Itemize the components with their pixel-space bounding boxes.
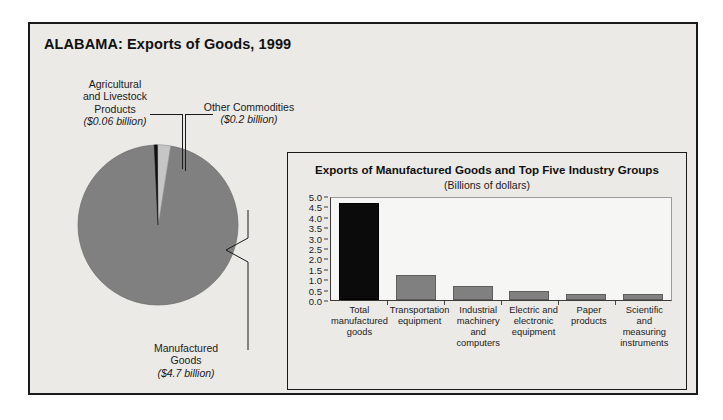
x-axis-label-line: products <box>562 316 615 327</box>
pie-label-agricultural-and-livestock-products: Agricultural and Livestock Products ($0.… <box>59 78 171 128</box>
y-axis-tick-label: 4.5 <box>309 202 322 213</box>
y-axis-tick-label: 3.0 <box>309 233 322 244</box>
x-axis-label: Industrialmachinery andcomputers <box>450 305 505 349</box>
y-axis-tick-mark <box>324 290 328 291</box>
leader-line-agricultural-vertical <box>182 114 183 169</box>
x-axis-label: Paperproducts <box>561 305 616 349</box>
x-axis-label-line: Transportation <box>390 305 450 316</box>
x-axis-label: Totalmanufacturedgoods <box>330 305 389 349</box>
figure-panel: ALABAMA: Exports of Goods, 1999 Agricult… <box>28 22 698 395</box>
pie-chart-svg <box>77 144 239 306</box>
y-axis-tick-label: 2.0 <box>309 254 322 265</box>
y-axis-tick-mark <box>324 249 328 250</box>
x-axis-label: Transportationequipment <box>389 305 451 349</box>
x-axis-label: Scientific andmeasuringinstruments <box>617 305 672 349</box>
pie-chart <box>77 144 239 306</box>
y-axis-tick-label: 1.0 <box>309 275 322 286</box>
x-axis-tick-mark <box>558 301 559 305</box>
x-axis-label-line: measuring <box>618 327 671 338</box>
x-axis-tick-mark <box>501 301 502 305</box>
pie-label-other-commodities: Other Commodities ($0.2 billion) <box>185 101 313 126</box>
y-axis-tick-label: 5.0 <box>309 192 322 203</box>
bar-slot <box>388 198 445 300</box>
y-axis-tick-mark <box>324 207 328 208</box>
bar-slot <box>331 198 388 300</box>
inset-chart-subtitle: (Billions of dollars) <box>288 179 686 191</box>
x-axis-tick-mark <box>615 301 616 305</box>
y-axis-tick-label: 4.0 <box>309 212 322 223</box>
y-axis-tick-mark <box>324 301 328 302</box>
pie-label-line1: Other Commodities <box>185 101 313 113</box>
x-axis-tick-mark <box>387 301 388 305</box>
bar-slot <box>614 198 671 300</box>
bar-electric-and-electronic-equipment <box>509 291 549 300</box>
x-axis-label-line: Scientific and <box>618 305 671 327</box>
pie-label-amount: ($0.06 billion) <box>59 115 171 127</box>
plot-area <box>330 197 672 301</box>
bar-slot <box>444 198 501 300</box>
y-axis-tick-mark <box>324 197 328 198</box>
bar-total-manufactured-goods <box>339 203 379 300</box>
y-axis-tick-label: 2.5 <box>309 244 322 255</box>
pie-label-line2: Goods <box>116 354 256 366</box>
bar-slot <box>501 198 558 300</box>
x-axis-label-line: equipment <box>507 327 560 338</box>
bar-series <box>331 198 671 300</box>
y-axis-tick-label: 0.0 <box>309 296 322 307</box>
x-axis-label-line: Industrial <box>451 305 504 316</box>
y-axis-tick-label: 0.5 <box>309 285 322 296</box>
x-axis-label-line: machinery and <box>451 316 504 338</box>
y-axis-tick-mark <box>324 217 328 218</box>
x-axis-label-line: instruments <box>618 338 671 349</box>
x-axis-label: Electric andelectronicequipment <box>506 305 561 349</box>
bar-paper-products <box>566 294 606 300</box>
x-axis-label-line: Paper <box>562 305 615 316</box>
pie-label-line2: and Livestock <box>59 90 171 102</box>
inset-chart-title: Exports of Manufactured Goods and Top Fi… <box>288 163 686 176</box>
y-axis-tick-mark <box>324 228 328 229</box>
y-axis-tick-mark <box>324 280 328 281</box>
pie-label-amount: ($0.2 billion) <box>185 113 313 125</box>
x-axis-label-line: Electric and <box>507 305 560 316</box>
bar-scientific-and-measuring-instruments <box>623 294 663 300</box>
pie-label-amount: ($4.7 billion) <box>116 367 256 379</box>
y-axis-tick-label: 3.5 <box>309 223 322 234</box>
bar-industrial-machinery-and-computers <box>453 286 493 300</box>
x-axis-tick-mark <box>444 301 445 305</box>
page-title: ALABAMA: Exports of Goods, 1999 <box>44 36 291 52</box>
bar-slot <box>558 198 615 300</box>
pie-to-inset-connector <box>226 210 290 350</box>
x-axis-label-line: goods <box>331 327 388 338</box>
inset-bar-chart-panel: Exports of Manufactured Goods and Top Fi… <box>287 152 687 390</box>
bar-transportation-equipment <box>396 275 436 300</box>
x-axis-label-line: Total <box>331 305 388 316</box>
x-axis-labels: TotalmanufacturedgoodsTransportationequi… <box>330 305 672 349</box>
x-axis-label-line: electronic <box>507 316 560 327</box>
y-axis-tick-label: 1.5 <box>309 264 322 275</box>
pie-label-line1: Agricultural <box>59 78 171 90</box>
y-axis-tick-mark <box>324 259 328 260</box>
y-axis: 0.00.51.01.52.02.53.03.54.04.55.0 <box>288 197 328 301</box>
x-axis-label-line: manufactured <box>331 316 388 327</box>
x-axis-label-line: equipment <box>390 316 450 327</box>
y-axis-tick-mark <box>324 238 328 239</box>
x-axis-label-line: computers <box>451 338 504 349</box>
y-axis-tick-mark <box>324 269 328 270</box>
pie-label-line3: Products <box>59 103 171 115</box>
